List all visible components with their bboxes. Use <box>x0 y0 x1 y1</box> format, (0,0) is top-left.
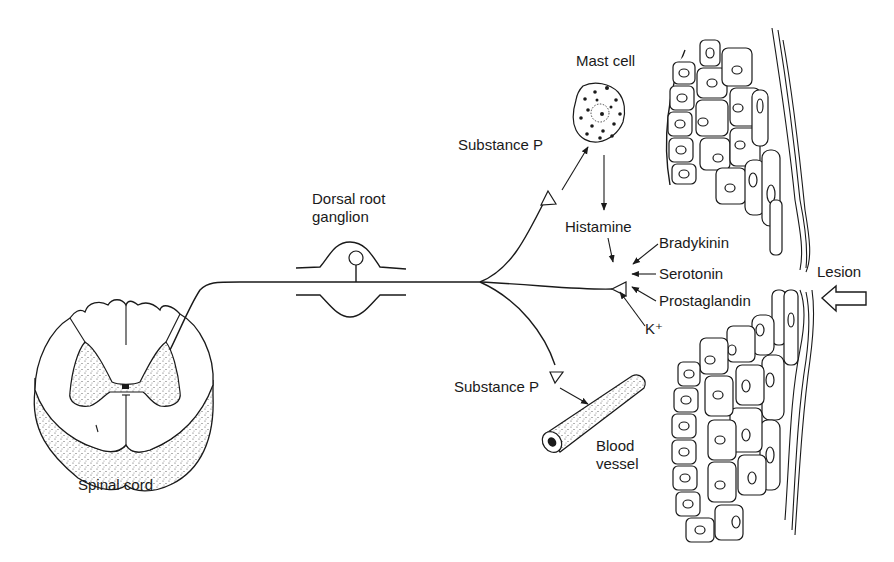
drg-label-line2: ganglion <box>312 208 369 225</box>
serotonin-label: Serotonin <box>659 265 723 282</box>
afferent-nerve-fiber <box>170 282 480 350</box>
substance-p-bottom-label: Substance P <box>454 378 539 395</box>
epithelium-lower <box>672 290 814 542</box>
blood-vessel-label-line2: vessel <box>596 455 639 472</box>
mast-cell-label: Mast cell <box>576 52 635 69</box>
nerve-ending-lower <box>550 372 563 383</box>
branch-lower <box>480 282 555 365</box>
lesion-label: Lesion <box>817 263 861 280</box>
bradykinin-label: Bradykinin <box>659 234 729 251</box>
blood-vessel-label-line1: Blood <box>596 437 634 454</box>
mast-cell <box>573 82 624 142</box>
nerve-ending-upper <box>541 191 556 205</box>
prostaglandin-label: Prostaglandin <box>659 292 751 309</box>
spinal-cord-label: Spinal cord <box>78 476 153 493</box>
dorsal-root-ganglion <box>296 242 406 317</box>
substance-p-top-label: Substance P <box>458 136 543 153</box>
nociception-diagram: Spinal cord Dorsal root ganglion Mast ce… <box>0 0 894 562</box>
spinal-cord <box>34 300 213 491</box>
histamine-label: Histamine <box>565 218 632 235</box>
lesion-arrow-icon <box>822 286 866 311</box>
nerve-ending-middle <box>612 282 626 296</box>
drg-label-line1: Dorsal root <box>312 190 386 207</box>
branch-middle <box>480 282 612 289</box>
potassium-label: K⁺ <box>645 320 663 337</box>
branch-upper <box>480 200 545 282</box>
